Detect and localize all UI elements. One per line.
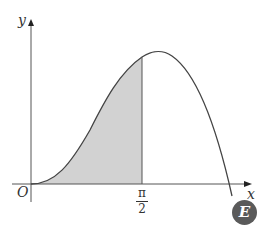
origin-label: O (17, 184, 28, 200)
badge-e: E (232, 200, 257, 225)
tick-numerator: π (134, 187, 150, 200)
tick-denominator: 2 (134, 203, 150, 216)
shaded-region (31, 57, 142, 184)
pi-over-2-tick-label: π 2 (134, 187, 150, 216)
graph (0, 0, 263, 231)
y-axis-label: y (18, 12, 26, 28)
y-axis-arrow-icon (28, 19, 34, 26)
